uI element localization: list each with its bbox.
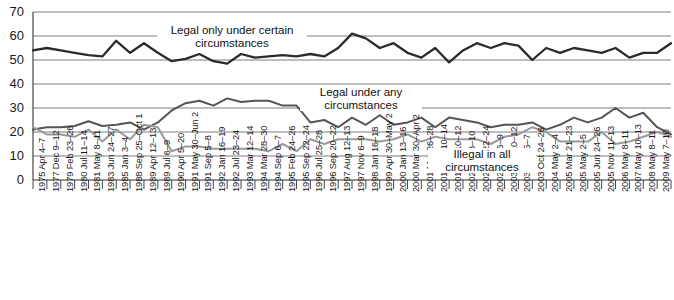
y-axis-tick-label: 50	[0, 52, 24, 67]
x-axis-tick-label: 1991 Sep 5–8	[203, 135, 213, 192]
x-axis-tick-label: 1999 Apr 30–May 2	[384, 113, 394, 192]
annot-line-1: Illegal in all	[428, 148, 536, 161]
y-axis-tick-label: 0	[0, 172, 24, 187]
x-axis-tick-label: 1995 Feb 24–26	[287, 126, 297, 192]
y-axis-tick-label: 10	[0, 148, 24, 163]
y-axis-tick-label: 60	[0, 28, 24, 43]
x-axis-tick-label: 1991 May 30–Jun 2	[190, 112, 200, 192]
y-axis-tick-label: 70	[0, 4, 24, 19]
annot-legal-only-under-certain: Legal only under certain circumstances	[157, 24, 307, 49]
x-axis-tick-label: 2007 May 10–13	[633, 124, 643, 192]
x-axis-tick-label: 1996 Jul 25–28	[314, 130, 324, 192]
x-axis-tick-label: 1997 Aug 12–13	[342, 126, 352, 192]
x-axis-tick-label: 2004 May 2–4	[550, 134, 560, 192]
x-axis-tick-label: 2000 Jan 13–16	[398, 127, 408, 192]
y-axis-tick-label: 40	[0, 76, 24, 91]
annot-line-2: circumstances	[428, 161, 536, 174]
y-axis-tick-label: 30	[0, 100, 24, 115]
x-axis-tick-label: 1989 Jul 6–9	[162, 140, 172, 192]
series-line-0	[33, 34, 671, 64]
x-axis-tick-label: 1992 Jul 23–24	[231, 130, 241, 192]
x-axis-tick-label: 2008 May 8–11	[647, 130, 657, 192]
chart-container: 010203040506070 1975 Apr 4–71977 Dec 9–1…	[0, 0, 674, 300]
annot-illegal-in-all: Illegal in all circumstances	[428, 148, 536, 173]
x-axis-tick-label: 2005 Nov 11–13	[606, 126, 616, 192]
x-axis-tick-label: 2005 Mar 21–23	[564, 126, 574, 192]
x-axis-tick-label: 1994 Sep 6–7	[273, 135, 283, 192]
x-axis-tick-label: 1983 Jun 24–27	[106, 127, 116, 192]
annot-line-1: Legal under any	[300, 86, 422, 99]
x-axis-tick-label: 1996 Sep 20–22	[328, 125, 338, 192]
x-axis-tick-label: 1992 Jan 16–19	[217, 127, 227, 192]
x-axis-tick-label: 1980 Jul 11–14	[79, 131, 89, 193]
x-axis-tick-label: 1981 May 8–11	[92, 130, 102, 192]
x-axis-tick-label: 1977 Dec 9–12	[51, 130, 61, 192]
annot-line-1: Legal only under certain	[157, 24, 307, 37]
x-axis-tick-label: 2005 Jun 24–26	[592, 127, 602, 192]
x-axis-tick-label: 1990 Apr 5–20	[176, 133, 186, 192]
x-axis-tick-label: 1975 Apr 4–7	[37, 138, 47, 192]
x-axis-tick-label: 2009 May 7–10	[661, 129, 671, 192]
x-axis-tick-label: 1993 Mar 12–14	[245, 126, 255, 192]
x-axis-tick-label: 2005 May 2–5	[578, 134, 588, 192]
x-axis-tick-label: 1994 Mar 28–30	[259, 126, 269, 192]
x-axis-tick-label: 1979 Feb 23–26	[65, 126, 75, 192]
x-axis-tick-label: 2006 May 8–11	[620, 130, 630, 192]
x-axis-tick-label: 2003 Oct 24–26	[536, 127, 546, 192]
annot-line-2: circumstances	[300, 99, 422, 112]
x-axis-tick-label: 1995 Sep 22–24	[301, 125, 311, 192]
x-axis-tick-label: 1988 Sep 25–Oct 1	[134, 114, 144, 192]
x-axis-tick-label: 1989 Apr 12–13	[148, 128, 158, 192]
annot-line-2: circumstances	[157, 37, 307, 50]
x-axis-tick-label: 2000 Mar 30–Apr 2	[411, 114, 421, 192]
x-axis-tick-label: 1997 Nov 6–9	[356, 135, 366, 192]
x-axis-tick-label: 1985 Jan 3–4	[120, 137, 130, 192]
y-axis-tick-label: 20	[0, 124, 24, 139]
x-axis-tick-label: 1998 Jan 16–18	[370, 127, 380, 192]
annot-legal-under-any: Legal under any circumstances	[300, 86, 422, 111]
